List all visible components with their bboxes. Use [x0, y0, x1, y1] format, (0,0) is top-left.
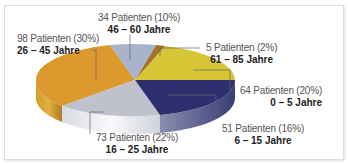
label-count: 73 Patienten (22%) — [96, 132, 178, 144]
label-46-60: 34 Patienten (10%) 46 – 60 Jahre — [98, 12, 180, 36]
label-count: 51 Patienten (16%) — [222, 123, 304, 135]
label-16-25: 73 Patienten (22%) 16 – 25 Jahre — [96, 132, 178, 156]
label-6-15: 51 Patienten (16%) 6 – 15 Jahre — [222, 123, 304, 147]
label-range: 61 – 85 Jahre — [206, 54, 277, 66]
label-count: 98 Patienten (30%) — [17, 33, 99, 45]
label-range: 46 – 60 Jahre — [98, 24, 180, 36]
label-61-85: 5 Patienten (2%) 61 – 85 Jahre — [206, 42, 277, 66]
label-count: 34 Patienten (10%) — [98, 12, 180, 24]
label-0-5: 64 Patienten (20%) 0 – 5 Jahre — [240, 85, 322, 109]
label-26-45: 98 Patienten (30%) 26 – 45 Jahre — [17, 33, 99, 57]
label-count: 5 Patienten (2%) — [206, 42, 277, 54]
label-range: 6 – 15 Jahre — [222, 135, 304, 147]
label-range: 0 – 5 Jahre — [240, 97, 322, 109]
label-range: 26 – 45 Jahre — [17, 45, 99, 57]
label-count: 64 Patienten (20%) — [240, 85, 322, 97]
label-range: 16 – 25 Jahre — [96, 144, 178, 156]
